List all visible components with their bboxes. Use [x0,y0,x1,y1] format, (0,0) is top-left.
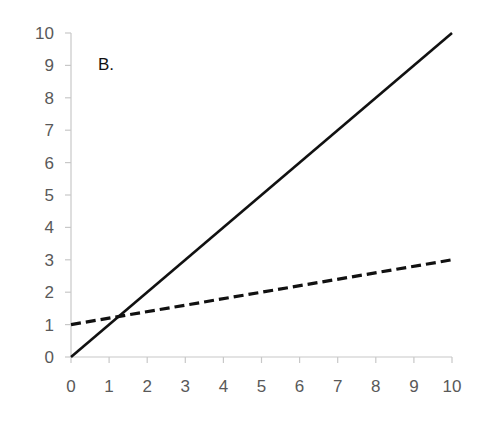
y-tick-label: 7 [45,121,54,140]
x-tick-label: 1 [104,377,113,396]
dashed-line-series [71,260,452,325]
x-tick-label: 0 [66,377,75,396]
y-tick-label: 0 [45,348,54,367]
x-tick-label: 9 [409,377,418,396]
solid-line-series [71,33,452,357]
y-tick-label: 3 [45,251,54,270]
y-tick-label: 1 [45,316,54,335]
x-tick-label: 5 [257,377,266,396]
y-tick-label: 2 [45,283,54,302]
y-tick-label: 8 [45,89,54,108]
line-chart: 012345678910 012345678910 B. [0,0,492,429]
x-tick-label: 7 [333,377,342,396]
y-tick-label: 5 [45,186,54,205]
x-axis: 012345678910 [66,357,461,396]
plot-area [71,33,452,357]
panel-label: B. [98,55,114,74]
x-tick-label: 6 [295,377,304,396]
y-tick-label: 10 [35,24,54,43]
x-tick-label: 3 [181,377,190,396]
y-tick-label: 6 [45,154,54,173]
x-tick-label: 8 [371,377,380,396]
y-tick-label: 4 [45,218,54,237]
y-tick-label: 9 [45,56,54,75]
y-axis: 012345678910 [35,24,71,367]
x-tick-label: 2 [142,377,151,396]
x-tick-label: 10 [443,377,462,396]
x-tick-label: 4 [219,377,228,396]
